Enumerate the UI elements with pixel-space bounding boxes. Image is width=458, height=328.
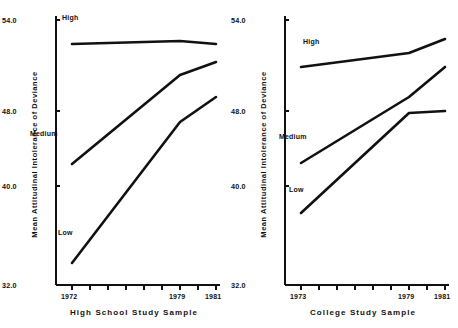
x-tick-marks-left [72, 285, 216, 290]
series-label-low: Low [58, 229, 73, 236]
plot-area-right [257, 0, 457, 328]
series-line-low-left [72, 97, 216, 263]
x-tick-label-1981: 1981 [205, 293, 221, 300]
panel-high-school: 54.0 48.0 40.0 32.0 1972 1979 1981 High … [28, 0, 228, 328]
y-tick-label-54: 54.0 [2, 16, 17, 25]
plot-area-left [28, 0, 228, 328]
y-tick-label-40: 40.0 [231, 182, 246, 191]
series-label-medium: Medium [279, 133, 307, 140]
y-tick-label-48: 48.0 [231, 107, 246, 116]
figure-root: Mean Attitudinal Intolerance of Deviance… [0, 0, 458, 328]
panel-title-high-school: High School Study Sample [34, 308, 234, 317]
y-tick-label-32: 32.0 [231, 281, 246, 290]
y-tick-label-32: 32.0 [2, 281, 17, 290]
x-tick-label-1979: 1979 [398, 293, 414, 300]
axis-lines-left [56, 16, 220, 285]
series-label-high: High [62, 14, 78, 21]
series-line-low-right [301, 111, 445, 213]
y-tick-label-40: 40.0 [2, 182, 17, 191]
x-tick-marks-right [301, 285, 445, 290]
y-tick-label-48: 48.0 [2, 107, 17, 116]
panel-college: 54.0 48.0 40.0 32.0 1973 1979 1981 High … [257, 0, 457, 328]
panel-title-college: College Study Sample [263, 308, 458, 317]
x-tick-label-1973: 1973 [290, 293, 306, 300]
series-line-high-right [301, 39, 445, 67]
series-line-medium-right [301, 67, 445, 163]
series-label-high: High [303, 38, 319, 45]
series-label-medium: Medium [30, 130, 58, 137]
series-label-low: Low [289, 186, 304, 193]
y-tick-label-54: 54.0 [231, 16, 246, 25]
x-tick-label-1979: 1979 [169, 293, 185, 300]
x-tick-label-1972: 1972 [61, 293, 77, 300]
series-line-high-left [72, 41, 216, 44]
x-tick-label-1981: 1981 [434, 293, 450, 300]
